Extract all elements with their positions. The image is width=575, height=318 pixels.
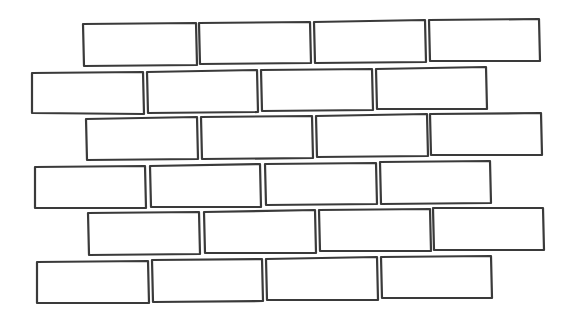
brick <box>316 114 428 157</box>
brick-row <box>32 67 487 114</box>
brick <box>266 257 378 300</box>
brick <box>86 117 198 160</box>
brick <box>429 19 540 61</box>
brick-row <box>86 113 542 160</box>
brick <box>265 163 377 205</box>
brick-row <box>83 19 540 66</box>
brick <box>35 166 146 208</box>
brick <box>433 208 544 250</box>
brick-wall-drawing <box>0 0 575 318</box>
brick <box>88 212 200 255</box>
brick-row <box>88 208 544 255</box>
brick <box>147 70 258 113</box>
brick <box>37 261 149 303</box>
brick <box>150 164 261 207</box>
brick <box>201 116 313 159</box>
brick-row <box>35 161 491 208</box>
brick <box>199 22 311 64</box>
brick <box>430 113 542 155</box>
brick <box>261 69 373 111</box>
brick <box>32 72 144 114</box>
brick <box>314 20 426 63</box>
brick-row <box>37 256 492 303</box>
brick <box>381 256 492 298</box>
brick <box>152 259 263 302</box>
brick <box>83 23 197 66</box>
brick <box>376 67 487 109</box>
brick <box>204 210 316 253</box>
brick <box>380 161 491 204</box>
brick <box>319 209 431 251</box>
